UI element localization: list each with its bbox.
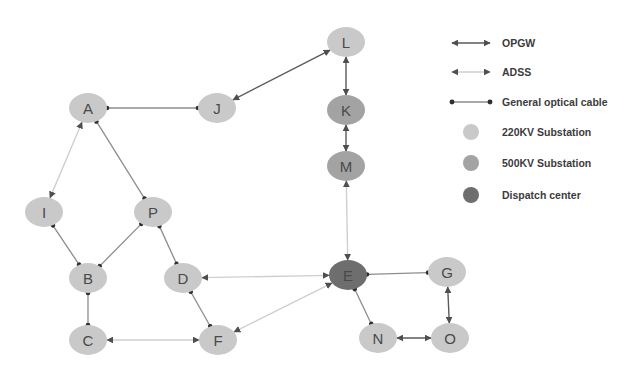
edge-e-n xyxy=(355,289,372,324)
edge-m-e xyxy=(346,181,347,260)
node-p[interactable]: P xyxy=(134,197,172,227)
legend-item-dispatch: Dispatch center xyxy=(463,187,581,203)
node-g[interactable]: G xyxy=(428,257,466,287)
edge-line xyxy=(346,181,347,260)
node-j[interactable]: J xyxy=(198,93,236,123)
node-label: K xyxy=(341,102,351,119)
node-m[interactable]: M xyxy=(327,151,365,181)
node-n[interactable]: N xyxy=(359,323,397,353)
node-label: G xyxy=(441,264,453,281)
node-label: L xyxy=(342,34,350,51)
node-k[interactable]: K xyxy=(327,95,365,125)
node-f[interactable]: F xyxy=(199,325,237,355)
edge-a-i xyxy=(50,122,82,198)
edge-i-b xyxy=(53,225,79,264)
node-e[interactable]: E xyxy=(329,260,367,290)
optical-network-topology-diagram: AJLKMIPBDCFEGNO OPGWADSSGeneral optical … xyxy=(0,0,632,372)
diagram-canvas: AJLKMIPBDCFEGNO OPGWADSSGeneral optical … xyxy=(0,0,632,372)
node-a[interactable]: A xyxy=(69,93,107,123)
node-label: P xyxy=(148,204,158,221)
node-layer: AJLKMIPBDCFEGNO xyxy=(25,27,469,355)
node-label: D xyxy=(178,270,189,287)
legend-item-sub500: 500KV Substation xyxy=(463,155,591,171)
legend-marker-sub500-icon xyxy=(463,155,479,171)
node-d[interactable]: D xyxy=(164,263,202,293)
node-label: M xyxy=(340,158,353,175)
node-label: J xyxy=(213,100,221,117)
legend-label-sub500: 500KV Substation xyxy=(502,157,591,169)
node-b[interactable]: B xyxy=(69,263,107,293)
edge-p-b xyxy=(100,224,142,266)
legend-label-dispatch: Dispatch center xyxy=(502,189,581,201)
edge-line xyxy=(159,226,176,264)
legend-label-adss: ADSS xyxy=(502,66,531,78)
node-label: I xyxy=(42,204,46,221)
edge-line xyxy=(53,225,79,264)
node-label: C xyxy=(83,332,94,349)
edge-a-p xyxy=(96,121,144,198)
edge-line xyxy=(448,287,450,323)
edge-line xyxy=(355,289,372,324)
legend-label-general: General optical cable xyxy=(502,96,608,108)
edge-layer xyxy=(50,50,449,340)
node-label: N xyxy=(373,330,384,347)
node-l[interactable]: L xyxy=(327,27,365,57)
node-c[interactable]: C xyxy=(69,325,107,355)
edge-line xyxy=(96,121,144,198)
node-label: O xyxy=(444,330,456,347)
edge-f-e xyxy=(234,283,332,332)
edge-p-d xyxy=(159,226,176,264)
legend-item-general: General optical cable xyxy=(452,96,608,108)
edge-j-l xyxy=(233,50,330,100)
node-i[interactable]: I xyxy=(25,197,63,227)
edge-line xyxy=(191,292,211,327)
node-label: A xyxy=(83,100,93,117)
edge-line xyxy=(367,273,428,275)
legend-item-sub220: 220KV Substation xyxy=(463,124,591,140)
legend-marker-dispatch-icon xyxy=(463,187,479,203)
node-label: E xyxy=(343,267,353,284)
legend-label-opgw: OPGW xyxy=(502,37,535,49)
edge-d-f xyxy=(191,292,211,327)
edge-line xyxy=(50,122,82,198)
legend-marker-sub220-icon xyxy=(463,124,479,140)
node-label: B xyxy=(83,270,93,287)
legend-layer: OPGWADSSGeneral optical cable220KV Subst… xyxy=(452,37,608,203)
edge-d-e xyxy=(202,275,329,277)
edge-e-g xyxy=(367,273,428,275)
edge-g-o xyxy=(448,287,450,323)
legend-item-opgw: OPGW xyxy=(452,37,535,49)
edge-line xyxy=(234,283,332,332)
node-o[interactable]: O xyxy=(431,323,469,353)
node-label: F xyxy=(213,332,222,349)
legend-label-sub220: 220KV Substation xyxy=(502,126,591,138)
legend-item-adss: ADSS xyxy=(452,66,531,78)
edge-line xyxy=(233,50,330,100)
edge-line xyxy=(202,275,329,277)
edge-line xyxy=(100,224,142,266)
